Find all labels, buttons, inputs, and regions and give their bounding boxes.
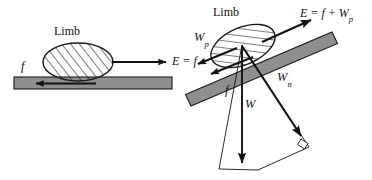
weight-parallel-label: Wp <box>194 31 209 46</box>
limb-shape-horizontal <box>43 43 113 81</box>
weight-normal-label: Wn <box>277 71 292 86</box>
limb-label-horizontal: Limb <box>54 25 80 37</box>
effort-label-inclined-text: E = f + W <box>300 6 349 20</box>
weight-label: W <box>245 98 255 111</box>
weight-parallel-label-text: W <box>194 30 204 44</box>
effort-label-inclined-subscript: p <box>349 14 353 24</box>
panel-horizontal <box>14 43 172 89</box>
construction-line-bottom-left <box>219 169 258 170</box>
physics-force-diagram: Limb f E = f Limb E = f + Wp Wp f W Wn <box>0 0 372 180</box>
weight-parallel-label-subscript: p <box>204 39 208 49</box>
limb-label-inclined: Limb <box>213 6 239 18</box>
effort-label-inclined: E = f + Wp <box>300 7 353 22</box>
weight-normal-label-text: W <box>277 70 287 84</box>
friction-label-horizontal: f <box>21 60 24 73</box>
construction-line-bottom-right <box>258 147 309 170</box>
right-angle-marker <box>298 139 309 149</box>
friction-label-inclined: f <box>225 84 228 97</box>
effort-label-horizontal: E = f <box>172 55 197 67</box>
weight-normal-label-subscript: n <box>287 79 291 89</box>
